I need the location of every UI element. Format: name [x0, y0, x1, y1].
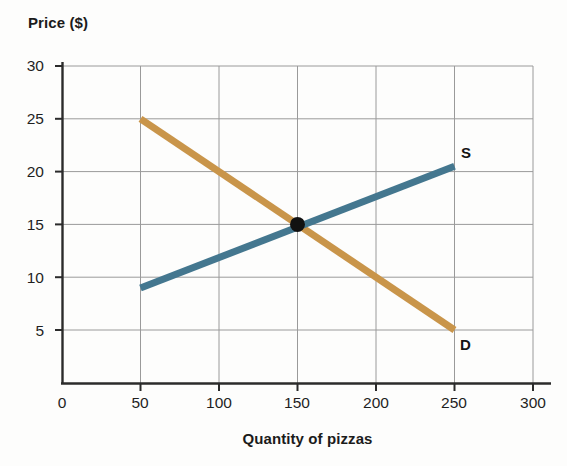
- y-axis-title: Price ($): [28, 14, 88, 31]
- y-tick-label-5: 5: [0, 322, 44, 340]
- supply-demand-chart: Price ($) Quantity of pizzas 30 25 20 15…: [0, 0, 567, 466]
- x-tick-label-50: 50: [114, 394, 166, 412]
- y-tick-label-20: 20: [0, 163, 44, 181]
- x-tick-label-200: 200: [350, 394, 402, 412]
- y-tick-label-30: 30: [0, 57, 44, 75]
- equilibrium-point-marker: [290, 217, 305, 232]
- y-tick-label-10: 10: [0, 269, 44, 287]
- y-tick-label-25: 25: [0, 110, 44, 128]
- x-tick-label-250: 250: [428, 394, 480, 412]
- x-tick-label-0: 0: [36, 394, 88, 412]
- y-tick-label-15: 15: [0, 216, 44, 234]
- x-axis-title: Quantity of pizzas: [0, 430, 567, 447]
- x-tick-label-300: 300: [507, 394, 559, 412]
- x-tick-label-100: 100: [193, 394, 245, 412]
- demand-curve-label: D: [460, 336, 471, 353]
- x-tick-label-150: 150: [271, 394, 323, 412]
- supply-curve-label: S: [461, 144, 471, 161]
